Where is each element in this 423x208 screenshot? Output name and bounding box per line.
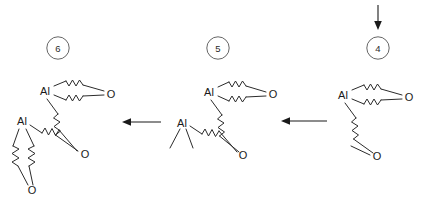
structure-5-atom-Al-top: Al <box>204 86 214 98</box>
reaction-scheme-diagram: 4 5 6 Al O O <box>0 0 423 208</box>
arrow-5-to-6 <box>122 118 161 126</box>
arrow-4-to-5 <box>281 117 327 125</box>
structure-4-atom-Al: Al <box>338 89 348 101</box>
structure-6-atom-Al-bottom: Al <box>17 115 27 127</box>
structure-4-atom-O-chain: O <box>373 150 382 162</box>
structure-4-atom-O-ring: O <box>405 91 414 103</box>
structure-number-6: 6 <box>47 37 69 59</box>
structure-5: Al O Al O <box>170 81 278 161</box>
structure-6-atom-O-chain: O <box>81 148 90 160</box>
structure-6: Al O Al O O <box>12 80 116 196</box>
structure-6-atom-O-ring: O <box>107 88 116 100</box>
structure-number-4: 4 <box>367 37 389 59</box>
structure-6-atom-O-bottom: O <box>28 184 37 196</box>
arrow-down-to-4 <box>374 5 382 30</box>
structure-number-6-text: 6 <box>55 43 60 54</box>
structure-number-5: 5 <box>207 37 229 59</box>
structure-5-atom-O-ring: O <box>269 88 278 100</box>
structure-5-atom-Al-bottom: Al <box>177 117 187 129</box>
structure-5-atom-O-chain: O <box>239 149 248 161</box>
structure-number-4-text: 4 <box>375 43 380 54</box>
structure-6-atom-Al-top: Al <box>40 85 50 97</box>
structure-number-5-text: 5 <box>215 43 220 54</box>
structure-4: Al O O <box>338 84 414 162</box>
